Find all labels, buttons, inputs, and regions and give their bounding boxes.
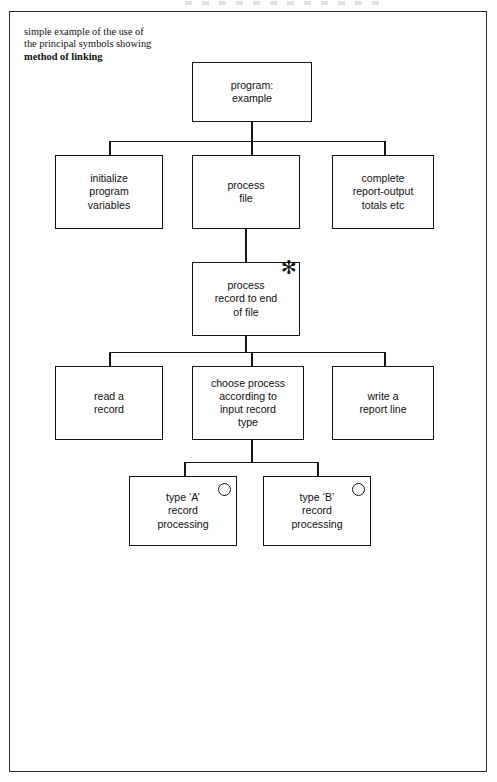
- node-label: read arecord: [89, 390, 129, 416]
- connector-process-file-to-record: [245, 229, 247, 262]
- connector-level4-bar: [184, 462, 318, 464]
- selection-circle-icon: [352, 483, 365, 496]
- node-label: processrecord to endof file: [210, 279, 282, 319]
- connector-to-type-a: [184, 462, 186, 477]
- node-process-file[interactable]: processfile: [192, 155, 300, 229]
- connector-to-type-b: [317, 462, 319, 477]
- node-write-a-report-line[interactable]: write areport line: [332, 366, 434, 440]
- connector-choose-stem: [251, 440, 253, 462]
- connector-record-stem: [245, 336, 247, 352]
- iteration-asterisk-icon: ✻: [281, 258, 297, 277]
- connector-to-write-line: [384, 352, 386, 367]
- caption-line-2: the principal symbols showing: [24, 38, 254, 50]
- connector-level1-bar: [110, 141, 385, 143]
- connector-to-initialize: [109, 141, 111, 156]
- scan-artifact: [185, 1, 380, 5]
- caption-line-1: simple example of the use of: [24, 26, 254, 38]
- node-initialize-program-variables[interactable]: initializeprogramvariables: [55, 155, 163, 229]
- node-label: processfile: [222, 179, 269, 205]
- node-program-example[interactable]: program:example: [192, 62, 312, 122]
- connector-to-read-record: [109, 352, 111, 367]
- connector-root-stem: [251, 122, 253, 141]
- node-label: completereport-outputtotals etc: [348, 172, 419, 212]
- connector-level3-bar: [110, 352, 385, 354]
- node-complete-report-output[interactable]: completereport-outputtotals etc: [332, 155, 434, 229]
- connector-to-complete: [384, 141, 386, 156]
- node-label: choose processaccording toinput recordty…: [206, 377, 290, 430]
- diagram-page: simple example of the use of the princip…: [0, 0, 497, 782]
- node-choose-process[interactable]: choose processaccording toinput recordty…: [192, 366, 304, 440]
- node-label: initializeprogramvariables: [83, 172, 135, 212]
- node-label: type ‘A’recordprocessing: [152, 491, 213, 531]
- node-label: type ‘B’recordprocessing: [286, 491, 347, 531]
- connector-to-process-file: [251, 141, 253, 156]
- selection-circle-icon: [218, 483, 231, 496]
- node-label: write areport line: [354, 390, 411, 416]
- node-label: program:example: [226, 79, 278, 105]
- node-read-a-record[interactable]: read arecord: [55, 366, 163, 440]
- connector-to-choose-process: [251, 352, 253, 367]
- caption: simple example of the use of the princip…: [24, 26, 254, 63]
